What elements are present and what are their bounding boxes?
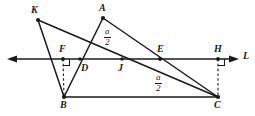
label-J: J <box>118 63 123 73</box>
segment-AB <box>64 18 103 97</box>
annotation-a-over-2-upper: a 2 <box>104 27 111 47</box>
point-K <box>36 18 40 22</box>
point-D <box>78 57 81 60</box>
label-H: H <box>214 44 222 54</box>
label-K: K <box>31 5 38 15</box>
label-F: F <box>59 44 66 54</box>
line-L-arrow-right <box>229 55 239 62</box>
point-H <box>216 57 220 61</box>
point-F <box>61 57 65 61</box>
label-E: E <box>157 44 164 54</box>
label-B: B <box>60 100 67 110</box>
fraction-denominator: 2 <box>104 38 111 47</box>
fraction-numerator: a <box>104 27 111 36</box>
label-A: A <box>99 3 106 13</box>
point-J <box>120 57 123 60</box>
label-C: C <box>214 100 221 110</box>
fraction-numerator: a <box>155 73 162 82</box>
perpendicular-FB-dashed <box>63 59 64 97</box>
geometry-diagram: K A F D J E H L B C a 2 a 2 <box>0 0 255 116</box>
point-A <box>101 16 105 20</box>
label-D: D <box>81 63 88 73</box>
point-E <box>158 57 162 61</box>
label-L: L <box>243 51 249 61</box>
annotation-a-over-2-lower: a 2 <box>155 73 162 93</box>
line-L-arrow-left <box>7 55 17 62</box>
fraction-denominator: 2 <box>155 84 162 93</box>
